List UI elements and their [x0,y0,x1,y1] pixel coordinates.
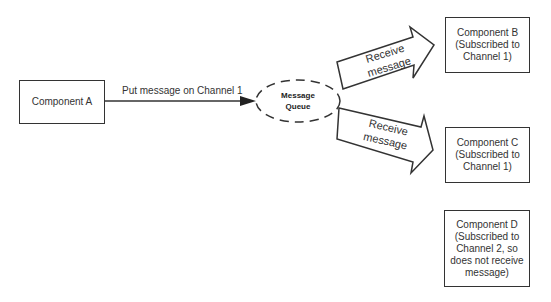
component-a-box: Component A [19,80,105,124]
message-queue-label: Message Queue [268,90,328,112]
component-d-box: Component D (Subscribed to Channel 2, so… [444,210,530,287]
edge-label-put-message: Put message on Channel 1 [122,85,243,96]
arrowhead-icon [240,96,256,106]
component-b-box: Component B (Subscribed to Channel 1) [445,17,530,73]
component-c-box: Component C (Subscribed to Channel 1) [445,127,530,183]
